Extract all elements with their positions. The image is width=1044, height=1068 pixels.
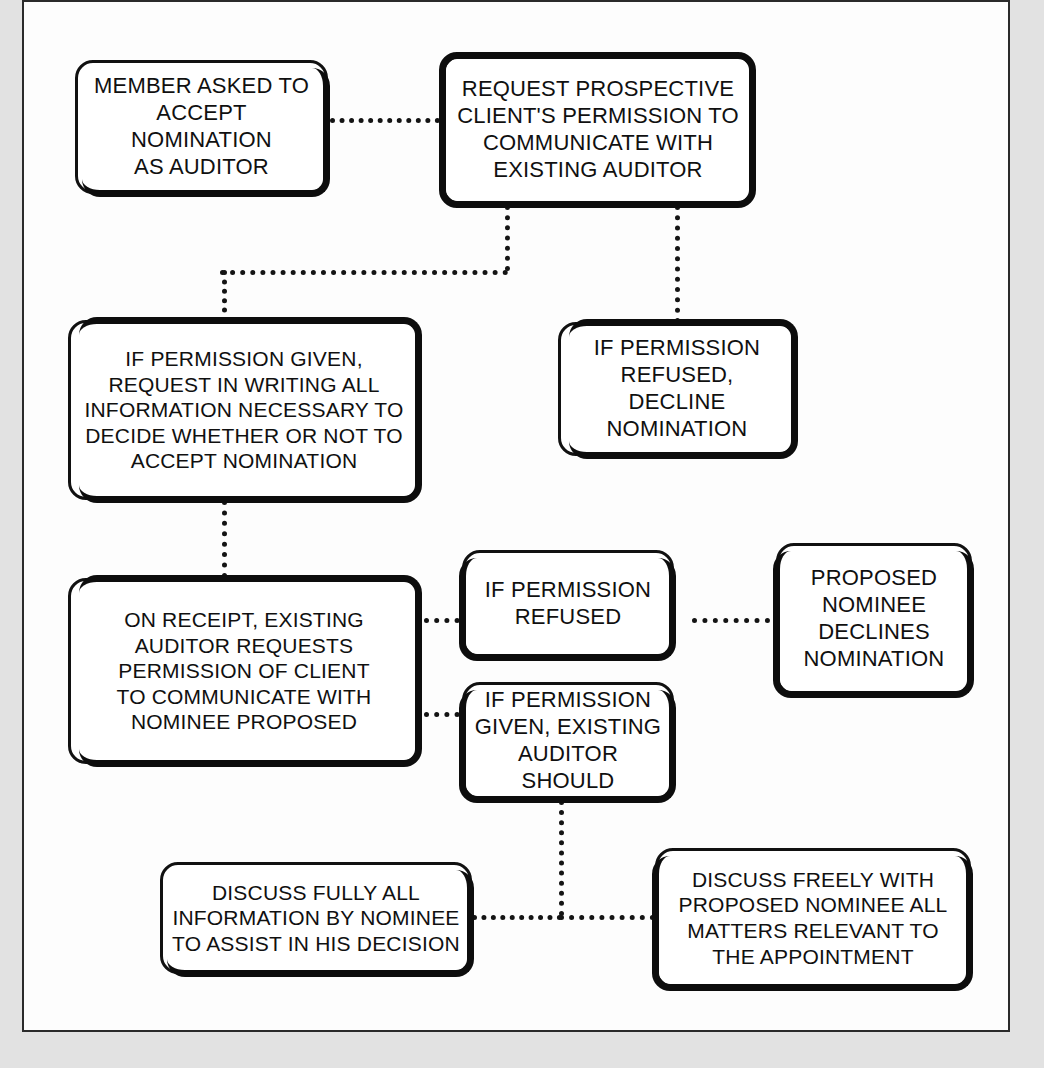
node-request-permission[interactable]: REQUEST PROSPECTIVE CLIENT'S PERMISSION … bbox=[442, 55, 754, 205]
connector-permission-given-existing-down bbox=[559, 800, 564, 916]
connector-member-asked-to-request-permission bbox=[330, 118, 440, 123]
node-permission-given-request-writing[interactable]: IF PERMISSION GIVEN, REQUEST IN WRITING … bbox=[68, 320, 420, 500]
node-permission-given-existing-auditor[interactable]: IF PERMISSION GIVEN, EXISTING AUDITOR SH… bbox=[462, 682, 674, 800]
node-discuss-freely-with[interactable]: DISCUSS FREELY WITH PROPOSED NOMINEE ALL… bbox=[655, 848, 971, 988]
node-label: IF PERMISSION GIVEN, EXISTING AUDITOR SH… bbox=[465, 687, 671, 794]
flowchart-canvas: MEMBER ASKED TO ACCEPT NOMINATION AS AUD… bbox=[0, 0, 1044, 1068]
connector-request-permission-down-left bbox=[505, 205, 510, 271]
node-label: REQUEST PROSPECTIVE CLIENT'S PERMISSION … bbox=[448, 76, 748, 183]
connector-bottom-bus-left bbox=[472, 915, 562, 920]
node-label: IF PERMISSION REFUSED, DECLINE NOMINATIO… bbox=[561, 335, 793, 442]
node-permission-refused-decline[interactable]: IF PERMISSION REFUSED, DECLINE NOMINATIO… bbox=[558, 322, 796, 456]
node-label: PROPOSED NOMINEE DECLINES NOMINATION bbox=[795, 565, 954, 672]
node-discuss-fully-all[interactable]: DISCUSS FULLY ALL INFORMATION BY NOMINEE… bbox=[160, 862, 472, 974]
node-label: DISCUSS FREELY WITH PROPOSED NOMINEE ALL… bbox=[670, 867, 957, 969]
node-member-asked[interactable]: MEMBER ASKED TO ACCEPT NOMINATION AS AUD… bbox=[75, 60, 328, 194]
node-label: IF PERMISSION GIVEN, REQUEST IN WRITING … bbox=[75, 346, 412, 474]
connector-permission-given-to-on-receipt bbox=[222, 500, 227, 578]
connector-bus-to-permission-given bbox=[220, 270, 508, 275]
connector-bottom-bus-right bbox=[559, 915, 655, 920]
node-label: MEMBER ASKED TO ACCEPT NOMINATION AS AUD… bbox=[78, 73, 325, 180]
node-permission-refused[interactable]: IF PERMISSION REFUSED bbox=[462, 550, 674, 658]
node-label: ON RECEIPT, EXISTING AUDITOR REQUESTS PE… bbox=[107, 607, 380, 735]
node-label: IF PERMISSION REFUSED bbox=[476, 577, 660, 631]
connector-down-into-permission-given bbox=[222, 270, 227, 322]
node-label: DISCUSS FULLY ALL INFORMATION BY NOMINEE… bbox=[163, 880, 469, 957]
diagram-page: MEMBER ASKED TO ACCEPT NOMINATION AS AUD… bbox=[0, 0, 1044, 1068]
connector-permission-refused-to-proposed-nominee bbox=[692, 618, 770, 623]
connector-request-permission-to-refused-decline bbox=[675, 205, 680, 323]
node-proposed-nominee-declines[interactable]: PROPOSED NOMINEE DECLINES NOMINATION bbox=[776, 543, 972, 695]
node-on-receipt-existing-auditor[interactable]: ON RECEIPT, EXISTING AUDITOR REQUESTS PE… bbox=[68, 578, 420, 764]
